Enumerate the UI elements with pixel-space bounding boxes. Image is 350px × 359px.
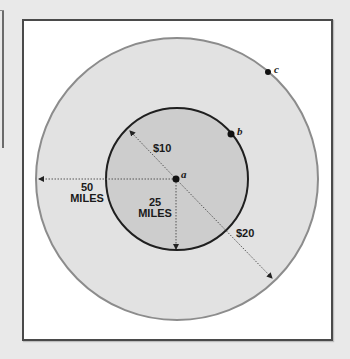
inner-price-label: $10: [153, 142, 171, 154]
concentric-circles-diagram: a b c $10 $20 50 MILES 25 MILES: [0, 0, 350, 359]
inner-radius-unit: MILES: [138, 207, 172, 219]
point-b-label: b: [237, 125, 243, 137]
point-a-label: a: [181, 168, 187, 180]
outer-radius-unit: MILES: [70, 192, 104, 204]
point-c-marker: [265, 69, 271, 75]
point-c-label: c: [274, 63, 279, 75]
point-a-marker: [173, 176, 180, 183]
outer-price-label: $20: [236, 227, 254, 239]
point-b-marker: [228, 131, 235, 138]
